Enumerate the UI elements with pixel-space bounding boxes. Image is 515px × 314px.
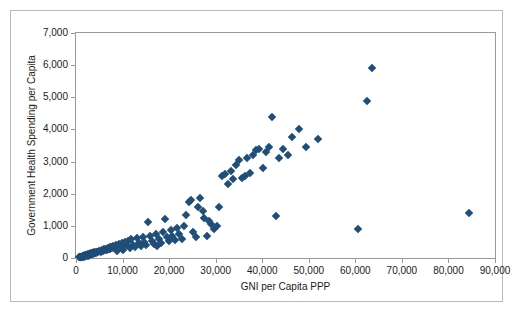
chart-figure: Government Health Spending per Capita 01… (10, 10, 503, 302)
scatter-point (465, 209, 473, 217)
x-axis-tick (169, 258, 170, 263)
x-axis-tick-label: 70,000 (387, 266, 418, 276)
scatter-point (182, 210, 190, 218)
y-axis-tick (71, 129, 76, 130)
scatter-point (144, 218, 152, 226)
y-axis-tick-label: 6,000 (43, 60, 68, 70)
scatter-point (294, 125, 302, 133)
scatter-point (275, 154, 283, 162)
scatter-point (161, 215, 169, 223)
y-axis-tick-label: 1,000 (43, 221, 68, 231)
x-axis-tick-label: 80,000 (433, 266, 464, 276)
scatter-point (353, 225, 361, 233)
x-axis-tick (402, 258, 403, 263)
scatter-point (203, 231, 211, 239)
x-axis-tick-label: 50,000 (293, 266, 324, 276)
x-axis-tick (309, 258, 310, 263)
scatter-point (196, 194, 204, 202)
scatter-point (180, 222, 188, 230)
x-axis-tick-label: 60,000 (340, 266, 371, 276)
x-axis-tick (76, 258, 77, 263)
x-axis-title: GNI per Capita PPP (75, 281, 496, 292)
y-axis-title: Government Health Spending per Capita (25, 32, 39, 259)
scatter-point (215, 202, 223, 210)
x-axis-tick-label: 40,000 (247, 266, 278, 276)
y-axis-tick (71, 162, 76, 163)
scatter-point (268, 112, 276, 120)
x-axis-tick-label: 10,000 (107, 266, 138, 276)
y-axis-tick (71, 65, 76, 66)
y-axis-tick-label: 4,000 (43, 124, 68, 134)
y-axis-tick (71, 194, 76, 195)
plot-area: 01,0002,0003,0004,0005,0006,0007,000010,… (75, 32, 496, 259)
scatter-point (363, 96, 371, 104)
x-axis-tick-label: 0 (73, 266, 79, 276)
x-axis-tick (355, 258, 356, 263)
scatter-point (367, 64, 375, 72)
y-axis-tick-label: 7,000 (43, 28, 68, 38)
y-axis-tick (71, 33, 76, 34)
y-axis-tick (71, 97, 76, 98)
x-axis-tick-label: 90,000 (480, 266, 511, 276)
y-axis-tick (71, 226, 76, 227)
data-points-layer (76, 33, 495, 258)
x-axis-tick-label: 30,000 (200, 266, 231, 276)
scatter-point (271, 212, 279, 220)
x-axis-tick (262, 258, 263, 263)
scatter-point (284, 151, 292, 159)
x-axis-tick (123, 258, 124, 263)
scatter-point (258, 164, 266, 172)
scatter-point (314, 135, 322, 143)
y-axis-tick-label: 5,000 (43, 92, 68, 102)
y-axis-tick-label: 0 (62, 253, 68, 263)
x-axis-tick (216, 258, 217, 263)
scatter-point (302, 143, 310, 151)
scatter-point (288, 133, 296, 141)
x-axis-tick-label: 20,000 (154, 266, 185, 276)
y-axis-tick-label: 3,000 (43, 157, 68, 167)
x-axis-tick (448, 258, 449, 263)
y-axis-tick-label: 2,000 (43, 189, 68, 199)
x-axis-tick (495, 258, 496, 263)
